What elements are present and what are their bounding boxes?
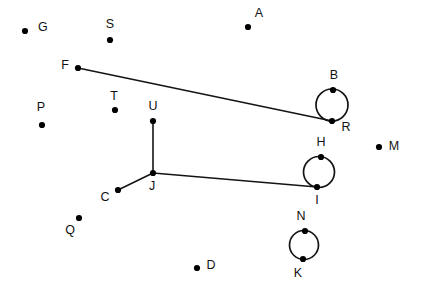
node-label-r: R	[341, 120, 350, 134]
node-k[interactable]	[300, 256, 306, 262]
node-label-b: B	[330, 68, 338, 82]
nodes-layer	[22, 24, 382, 271]
node-labels-layer: GSAFBPTURMHJICQNKD	[37, 6, 399, 280]
node-a[interactable]	[245, 24, 251, 30]
node-label-k: K	[294, 266, 303, 280]
node-label-u: U	[148, 99, 157, 113]
graph-svg: GSAFBPTURMHJICQNKD	[0, 0, 432, 298]
node-label-q: Q	[65, 223, 75, 237]
node-j[interactable]	[150, 170, 156, 176]
loop-edge-h-i	[304, 157, 335, 188]
node-label-c: C	[100, 190, 109, 204]
node-label-a: A	[255, 6, 264, 20]
node-m[interactable]	[376, 144, 382, 150]
node-label-p: P	[37, 100, 45, 114]
node-t[interactable]	[112, 107, 118, 113]
node-label-g: G	[38, 20, 48, 34]
node-label-d: D	[206, 258, 215, 272]
node-label-t: T	[110, 89, 118, 103]
node-f[interactable]	[75, 65, 81, 71]
node-label-n: N	[296, 209, 305, 223]
node-d[interactable]	[194, 265, 200, 271]
node-i[interactable]	[314, 184, 320, 190]
node-label-s: S	[106, 17, 114, 31]
node-label-m: M	[389, 139, 399, 153]
node-label-j: J	[149, 179, 155, 193]
node-u[interactable]	[150, 118, 156, 124]
graph-diagram-canvas: GSAFBPTURMHJICQNKD	[0, 0, 432, 298]
node-label-f: F	[61, 58, 69, 72]
loop-edge-n-k	[290, 231, 319, 260]
node-g[interactable]	[22, 28, 28, 34]
edge-j-i	[153, 173, 317, 187]
node-label-h: H	[316, 135, 325, 149]
node-p[interactable]	[39, 122, 45, 128]
node-r[interactable]	[329, 118, 335, 124]
node-s[interactable]	[107, 37, 113, 43]
node-n[interactable]	[302, 228, 308, 234]
node-q[interactable]	[76, 215, 82, 221]
edge-j-c	[118, 173, 153, 190]
node-c[interactable]	[115, 187, 121, 193]
node-label-i: I	[315, 193, 318, 207]
node-b[interactable]	[330, 87, 336, 93]
loop-edge-b-r	[316, 89, 348, 121]
edges-layer	[78, 68, 332, 190]
node-h[interactable]	[318, 154, 324, 160]
